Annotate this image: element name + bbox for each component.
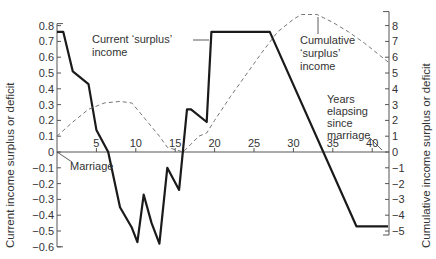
y-left-tick-label: 0 <box>48 146 54 158</box>
y-left-tick-label: 0.5 <box>39 67 54 79</box>
y-right-tick-label: 0 <box>392 146 398 158</box>
y-left-tick-label: 0.4 <box>39 83 54 95</box>
y-right-tick-label: 6 <box>392 51 398 63</box>
y-right-tick-label: 2 <box>392 114 398 126</box>
years-label-line3: since <box>327 117 353 129</box>
annotation-current-surplus: Current ‘surplus’ income <box>92 33 209 58</box>
y-right-tick-label: 5 <box>392 67 398 79</box>
y-right-tick-label: −1 <box>392 162 405 174</box>
current-surplus-label-line2: income <box>92 46 127 58</box>
y-left-tick-label: −0.3 <box>32 193 54 205</box>
y-axis-left-title: Current income surplus or deficit <box>4 82 16 248</box>
y-left-tick-label: −0.1 <box>32 162 54 174</box>
y-left-tick-label: 0.6 <box>39 51 54 63</box>
years-label-line4: marriage <box>327 129 370 141</box>
years-label-line2: elapsing <box>327 105 368 117</box>
annotation-marriage: Marriage <box>57 152 113 172</box>
y-left-tick-label: 0.1 <box>39 130 54 142</box>
y-right-tick-label: −3 <box>392 193 405 205</box>
x-tick-label: 20 <box>208 137 220 149</box>
current-surplus-label-line1: Current ‘surplus’ <box>92 33 172 45</box>
y-left-tick-label: 0.7 <box>39 35 54 47</box>
x-tick-label: 5 <box>93 137 99 149</box>
cumulative-surplus-label-line3: income <box>300 60 335 72</box>
y-right-tick-label: 7 <box>392 35 398 47</box>
y-right-tick-label: 3 <box>392 99 398 111</box>
y-right-tick-label: 8 <box>392 20 398 32</box>
y-right-tick-label: 1 <box>392 130 398 142</box>
y-axis-right-title: Cumulative income surplus or deficit <box>420 62 432 248</box>
annotation-cumulative-surplus: Cumulative ‘surplus’ income <box>300 17 355 72</box>
y-right-tick-label: −2 <box>392 178 405 190</box>
marriage-label: Marriage <box>70 160 113 172</box>
x-tick-label: 25 <box>248 137 260 149</box>
y-left-tick-label: −0.4 <box>32 209 54 221</box>
y-left-tick-label: −0.6 <box>32 241 54 253</box>
x-tick-label: 30 <box>287 137 299 149</box>
x-tick-label: 15 <box>169 137 181 149</box>
y-right-tick-label: −4 <box>392 209 405 221</box>
chart: 0.80.70.60.50.40.30.20.10−0.1−0.2−0.3−0.… <box>0 0 436 259</box>
y-right-tick-label: 4 <box>392 83 398 95</box>
x-tick-label: 10 <box>130 137 142 149</box>
y-left-tick-label: 0.3 <box>39 99 54 111</box>
chart-canvas: 0.80.70.60.50.40.30.20.10−0.1−0.2−0.3−0.… <box>0 0 436 259</box>
y-left-tick-label: −0.2 <box>32 178 54 190</box>
years-label-line1: Years <box>327 93 355 105</box>
y-left-tick-label: 0.8 <box>39 20 54 32</box>
cumulative-surplus-label-line2: ‘surplus’ <box>300 47 340 59</box>
y-left-tick-label: −0.5 <box>32 225 54 237</box>
y-right-tick-label: −5 <box>392 225 405 237</box>
marriage-leader-line <box>57 152 72 162</box>
cumulative-surplus-label-line1: Cumulative <box>300 34 355 46</box>
y-left-tick-label: 0.2 <box>39 114 54 126</box>
